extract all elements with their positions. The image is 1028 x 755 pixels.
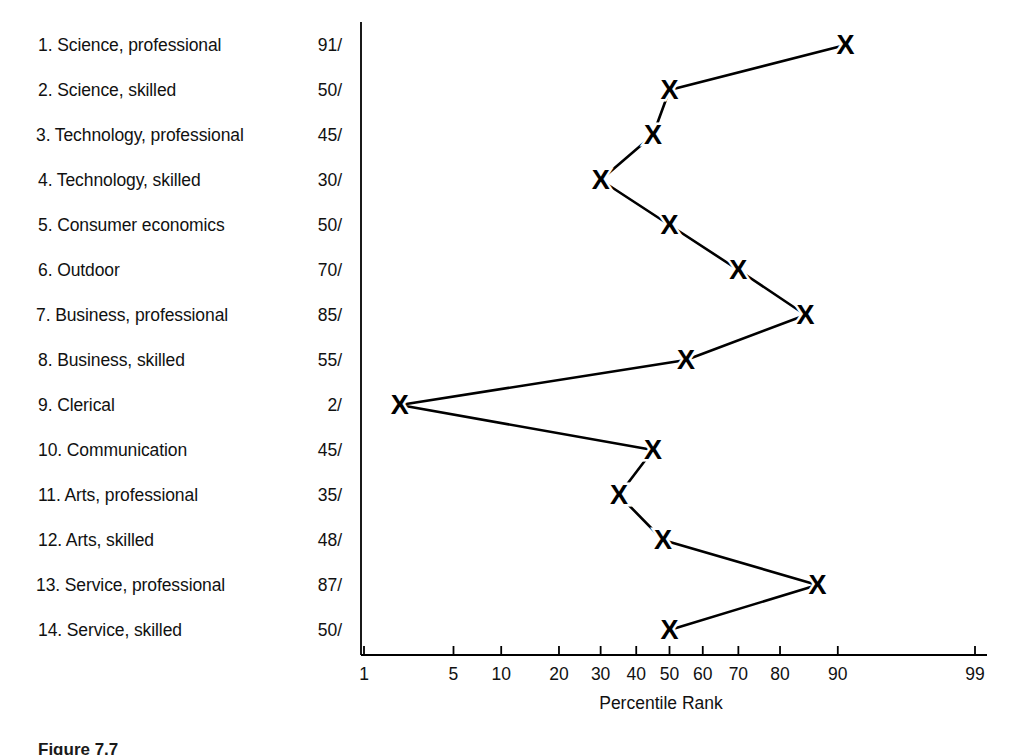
marker-glyph: X	[391, 390, 409, 420]
marker-glyph: X	[660, 75, 678, 105]
x-tick-label: 70	[729, 663, 748, 685]
marker-glyph: X	[660, 210, 678, 240]
marker-glyph: X	[654, 525, 672, 555]
marker-glyph: X	[797, 300, 815, 330]
data-point-marker: XX	[808, 570, 826, 600]
x-tick-label: 30	[591, 663, 610, 685]
marker-glyph: X	[610, 480, 628, 510]
x-tick-label: 5	[449, 663, 459, 685]
x-tick-label: 90	[828, 663, 847, 685]
data-point-marker: XX	[837, 30, 855, 60]
marker-glyph: X	[837, 30, 855, 60]
x-tick-label: 60	[693, 663, 712, 685]
marker-glyph: X	[677, 345, 695, 375]
data-point-marker: XX	[654, 525, 672, 555]
data-point-marker: XX	[660, 210, 678, 240]
x-tick-label: 20	[549, 663, 568, 685]
data-point-marker: XX	[391, 390, 409, 420]
profile-plot: XXXXXXXXXXXXXXXXXXXXXXXXXXXX	[0, 0, 1028, 700]
marker-glyph: X	[644, 435, 662, 465]
data-point-marker: XX	[660, 75, 678, 105]
x-tick-label: 10	[491, 663, 510, 685]
interest-profile-figure: 1. Science, professional91/2. Science, s…	[0, 0, 1028, 755]
data-point-marker: XX	[797, 300, 815, 330]
profile-line	[400, 45, 846, 630]
data-point-marker: XX	[644, 435, 662, 465]
data-point-marker: XX	[644, 120, 662, 150]
x-tick-label: 1	[359, 663, 369, 685]
axis-group	[361, 22, 987, 655]
data-point-marker: XX	[592, 165, 610, 195]
x-tick-label: 40	[626, 663, 645, 685]
x-tick-label: 50	[660, 663, 679, 685]
marker-group: XXXXXXXXXXXXXXXXXXXXXXXXXXXX	[391, 30, 855, 645]
marker-glyph: X	[644, 120, 662, 150]
figure-caption: Figure 7.7	[38, 739, 118, 755]
marker-glyph: X	[592, 165, 610, 195]
data-point-marker: XX	[677, 345, 695, 375]
marker-glyph: X	[729, 255, 747, 285]
x-axis-tick-labels: 1510203040506070809099	[0, 663, 1028, 689]
marker-glyph: X	[808, 570, 826, 600]
x-tick-label: 80	[770, 663, 789, 685]
data-point-marker: XX	[660, 615, 678, 645]
data-point-marker: XX	[729, 255, 747, 285]
marker-glyph: X	[660, 615, 678, 645]
x-axis-title: Percentile Rank	[361, 692, 961, 714]
x-tick-label: 99	[965, 663, 984, 685]
data-point-marker: XX	[610, 480, 628, 510]
